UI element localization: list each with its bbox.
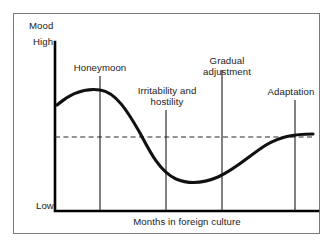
annotation-honeymoon: Honeymoon xyxy=(74,62,127,73)
culture-shock-curve-figure: Mood High Low Months in foreign culture … xyxy=(0,0,334,249)
annotation-irritability: Irritability and hostility xyxy=(138,85,197,107)
annotation-gradual-line-1: Gradual xyxy=(203,55,251,66)
x-axis-title: Months in foreign culture xyxy=(133,216,241,227)
annotation-gradual-line-2: adjustment xyxy=(203,66,251,77)
annotation-honeymoon-line-1: Honeymoon xyxy=(74,62,127,73)
y-axis-low-label: Low xyxy=(36,200,54,211)
y-axis-high-label: High xyxy=(33,36,53,47)
annotation-adaptation-line-1: Adaptation xyxy=(268,86,315,97)
annotation-adaptation: Adaptation xyxy=(268,86,315,97)
annotation-irritability-line-1: Irritability and xyxy=(138,85,197,96)
y-axis-title: Mood xyxy=(29,20,53,31)
annotation-gradual-adjustment: Gradual adjustment xyxy=(203,55,251,77)
annotation-irritability-line-2: hostility xyxy=(138,96,197,107)
